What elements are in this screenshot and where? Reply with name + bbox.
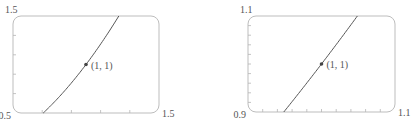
x-max-label: 1.1 [398, 107, 411, 118]
y-max-label: 1.5 [5, 4, 18, 15]
data-point [84, 63, 88, 67]
y-max-label: 1.1 [240, 4, 253, 15]
data-point [320, 62, 324, 66]
chart-figure: (1, 1)0.51.51.5 (1, 1)0.91.11.1 [0, 0, 411, 124]
point-label: (1, 1) [91, 60, 113, 72]
point-label: (1, 1) [327, 59, 349, 71]
x-max-label: 1.5 [162, 108, 175, 119]
plot-right: (1, 1)0.91.11.1 [234, 4, 411, 120]
axis-min-label: 0.5 [0, 110, 11, 121]
axis-min-label: 0.9 [234, 109, 247, 120]
plot-left: (1, 1)0.51.51.5 [0, 4, 175, 121]
